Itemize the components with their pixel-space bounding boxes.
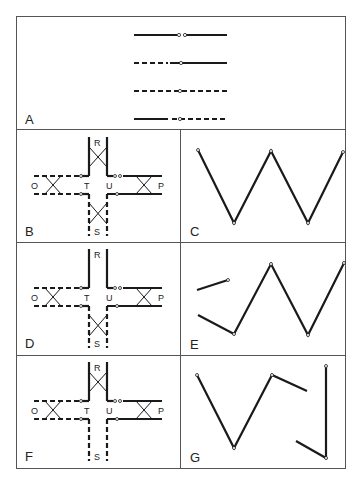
- node-r: R: [94, 138, 101, 148]
- node-t: T: [84, 181, 90, 191]
- node-s: S: [94, 452, 100, 462]
- panel-c: C: [190, 149, 345, 240]
- panel-b: R S O P T U B: [25, 137, 164, 239]
- panel-a: A: [25, 33, 227, 127]
- node-u: U: [106, 181, 113, 191]
- panel-g: G: [190, 365, 328, 466]
- node-u: U: [106, 406, 113, 416]
- node-r: R: [94, 363, 101, 373]
- node-o: O: [31, 181, 38, 191]
- node-p: P: [158, 293, 164, 303]
- panel-label-g: G: [190, 450, 200, 465]
- panel-e: E: [190, 262, 346, 353]
- panel-label-e: E: [190, 337, 199, 352]
- figure-canvas: .sol { stroke:#1a1a1a; stroke-width:2.2;…: [0, 0, 364, 481]
- panel-f: R S O P T U F: [25, 362, 164, 464]
- panel-label-f: F: [25, 449, 33, 464]
- node-r: R: [94, 250, 101, 260]
- panel-label-a: A: [25, 112, 34, 127]
- panel-label-b: B: [25, 224, 34, 239]
- panel-label-c: C: [190, 224, 199, 239]
- node-s: S: [94, 227, 100, 237]
- node-p: P: [158, 406, 164, 416]
- panel-frame: [16, 17, 346, 470]
- node-t: T: [84, 406, 90, 416]
- node-o: O: [31, 293, 38, 303]
- panel-label-d: D: [25, 336, 34, 351]
- node-u: U: [106, 293, 113, 303]
- node-s: S: [94, 339, 100, 349]
- node-t: T: [84, 293, 90, 303]
- panel-d: R S O P T U D: [25, 249, 164, 351]
- node-o: O: [31, 406, 38, 416]
- node-p: P: [158, 181, 164, 191]
